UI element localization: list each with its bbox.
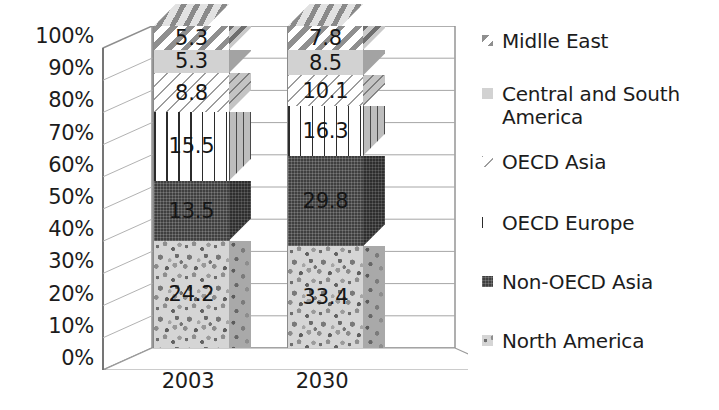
- bar-top-face-2003: [154, 4, 229, 26]
- bar-segment-central-south-america-2030[interactable]: 8.5: [287, 50, 364, 76]
- bar-segment-non-oecd-asia-2030[interactable]: 29.8: [287, 156, 364, 247]
- value-label-central-south-america-2030: 8.5: [288, 52, 363, 73]
- value-label-non-oecd-asia-2030: 29.8: [288, 191, 363, 212]
- bar-segment-oecd-europe-2030[interactable]: 16.3: [287, 106, 364, 156]
- bar-segment-central-south-america-2003[interactable]: 5.3: [153, 50, 230, 74]
- bar-segment-north-america-2003[interactable]: 24.2: [153, 241, 230, 348]
- y-tick-90: 90%: [48, 58, 94, 79]
- y-tick-70: 70%: [48, 122, 94, 143]
- legend-label-oecd-europe: OECD Europe: [502, 212, 634, 235]
- legend-item-north-america[interactable]: North America: [482, 330, 714, 353]
- y-tick-30: 30%: [48, 251, 94, 272]
- y-tick-60: 60%: [48, 154, 94, 175]
- northamerica-swatch-icon: [482, 335, 493, 346]
- x-tick-label-2003: 2003: [138, 371, 238, 392]
- bar-segment-non-oecd-asia-2003[interactable]: 13.5: [153, 181, 230, 241]
- y-tick-80: 80%: [48, 90, 94, 111]
- legend-label-central-south-america: Central and South America: [502, 83, 714, 129]
- legend-item-central-south-america[interactable]: Central and South America: [482, 83, 714, 129]
- bar-segment-oecd-europe-2003[interactable]: 15.5: [153, 112, 230, 181]
- oecdasia-swatch-icon: [482, 156, 493, 167]
- value-label-middle-east-2003: 5.3: [154, 27, 229, 48]
- legend-item-oecd-asia[interactable]: OECD Asia: [482, 151, 714, 174]
- value-label-oecd-europe-2030: 16.3: [288, 120, 363, 141]
- bar-side-face-north-america-2003: [229, 241, 251, 348]
- bar-segment-oecd-asia-2030[interactable]: 10.1: [287, 75, 364, 106]
- bar-segment-middle-east-2030[interactable]: 7.8: [287, 26, 364, 50]
- bar-segment-middle-east-2003[interactable]: 5.3: [153, 26, 230, 50]
- oecdeurope-swatch-icon: [482, 217, 493, 228]
- nonoecdasia-swatch-icon: [482, 276, 493, 287]
- legend-label-non-oecd-asia: Non-OECD Asia: [502, 271, 653, 294]
- y-tick-50: 50%: [48, 187, 94, 208]
- y-tick-10: 10%: [48, 315, 94, 336]
- x-tick-label-2030: 2030: [272, 371, 372, 392]
- y-axis: 100% 90% 80% 70% 60% 50% 40% 30% 20% 10%…: [12, 36, 98, 358]
- value-label-central-south-america-2003: 5.3: [154, 51, 229, 72]
- bar-top-face-2030: [288, 4, 363, 26]
- value-label-non-oecd-asia-2003: 13.5: [154, 200, 229, 221]
- legend-label-oecd-asia: OECD Asia: [502, 151, 606, 174]
- y-tick-40: 40%: [48, 219, 94, 240]
- bar-stack-2030[interactable]: 7.8 8.5 10.1 16.3 29.8: [287, 26, 364, 348]
- value-label-oecd-europe-2003: 15.5: [154, 136, 229, 157]
- bar-segment-oecd-asia-2003[interactable]: 8.8: [153, 73, 230, 112]
- legend-label-middle-east: Midlle East: [502, 30, 608, 53]
- value-label-oecd-asia-2030: 10.1: [288, 80, 363, 101]
- value-label-north-america-2003: 24.2: [154, 284, 229, 305]
- y-tick-100: 100%: [35, 26, 94, 47]
- legend-item-oecd-europe[interactable]: OECD Europe: [482, 212, 714, 235]
- value-label-oecd-asia-2003: 8.8: [154, 82, 229, 103]
- value-label-north-america-2030: 33.4: [288, 287, 363, 308]
- y-tick-0: 0%: [61, 348, 94, 369]
- legend-item-non-oecd-asia[interactable]: Non-OECD Asia: [482, 271, 714, 294]
- bar-segment-north-america-2030[interactable]: 33.4: [287, 246, 364, 348]
- centralsouth-swatch-icon: [482, 88, 493, 99]
- legend-item-middle-east[interactable]: Midlle East: [482, 30, 714, 53]
- bar-side-face-north-america-2030: [363, 246, 385, 348]
- middleeast-swatch-icon: [482, 35, 493, 46]
- value-label-middle-east-2030: 7.8: [288, 27, 363, 48]
- stacked-bar-chart: 100% 90% 80% 70% 60% 50% 40% 30% 20% 10%…: [0, 0, 719, 410]
- plot-area: 5.3 5.3 8.8 15.5 13.5: [98, 26, 468, 370]
- bar-stack-2003[interactable]: 5.3 5.3 8.8 15.5 13.5: [153, 26, 230, 348]
- legend-label-north-america: North America: [502, 330, 644, 353]
- y-tick-20: 20%: [48, 283, 94, 304]
